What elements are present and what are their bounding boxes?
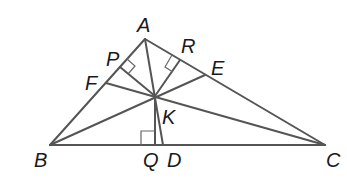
triangle-diagram: A B C K P R F E Q D (0, 0, 347, 181)
side-ca (145, 39, 325, 145)
label-d: D (167, 149, 181, 171)
right-angle-mark-r (165, 55, 173, 72)
right-angle-mark-p (127, 59, 135, 74)
label-p: P (106, 48, 120, 70)
label-e: E (211, 57, 225, 79)
label-r: R (181, 35, 195, 57)
label-q: Q (143, 149, 159, 171)
side-ab (50, 39, 145, 145)
label-a: A (136, 14, 150, 36)
label-f: F (85, 72, 99, 94)
label-k: K (162, 106, 177, 128)
label-c: C (326, 149, 341, 171)
label-b: B (34, 149, 47, 171)
right-angle-mark-q (141, 131, 155, 145)
segment-cf (106, 83, 325, 145)
segment-be (50, 75, 205, 145)
segment-kr (155, 60, 180, 96)
